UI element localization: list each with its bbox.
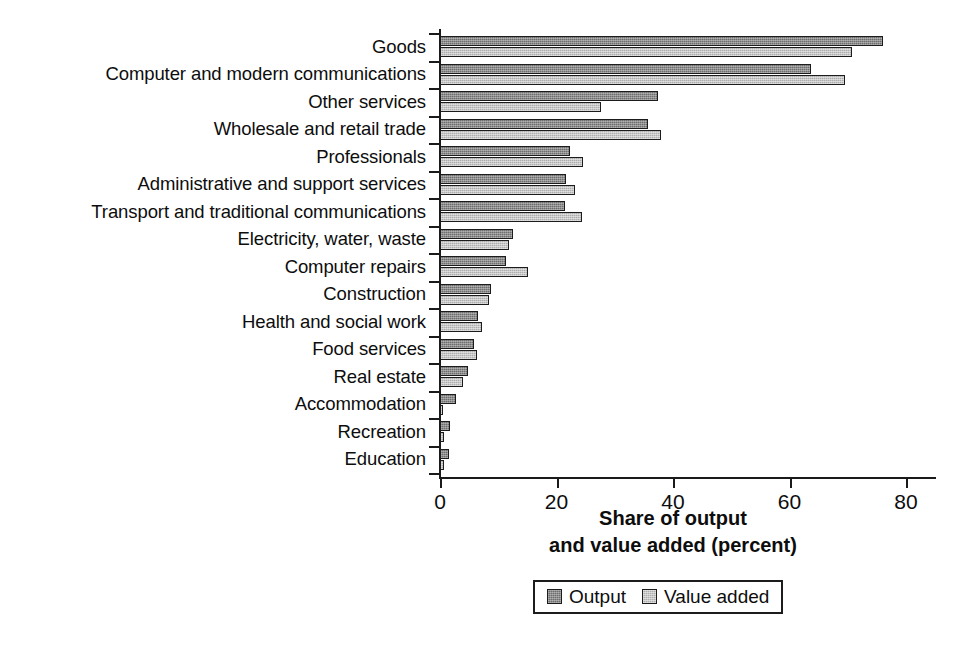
bar-value-added	[440, 75, 845, 85]
y-axis-tick	[429, 281, 439, 283]
y-axis-tick	[429, 198, 439, 200]
bar-value-added	[440, 212, 582, 222]
legend-entry: Output	[547, 587, 626, 606]
category-label: Education	[0, 446, 434, 474]
bar-value-added	[440, 460, 444, 470]
bar-value-added	[440, 322, 482, 332]
y-axis-tick	[429, 226, 439, 228]
bar-group	[440, 391, 906, 419]
category-label: Electricity, water, waste	[0, 226, 434, 254]
bar-group	[440, 33, 906, 61]
y-axis-tick	[429, 336, 439, 338]
x-axis-line	[439, 477, 936, 479]
category-label: Goods	[0, 33, 434, 61]
plot-area: 020406080	[440, 33, 906, 473]
bar-value-added	[440, 240, 509, 250]
category-label: Recreation	[0, 418, 434, 446]
bar-value-added	[440, 350, 477, 360]
y-axis-tick	[429, 363, 439, 365]
category-label: Food services	[0, 336, 434, 364]
bar-value-added	[440, 377, 463, 387]
bar-value-added	[440, 405, 443, 415]
bar-output	[440, 36, 883, 46]
chart-legend: OutputValue added	[533, 580, 783, 614]
category-axis-labels: GoodsComputer and modern communicationsO…	[0, 33, 434, 473]
x-axis-tick	[790, 477, 792, 488]
x-axis-tick	[906, 477, 908, 488]
y-axis-tick	[429, 308, 439, 310]
category-label: Professionals	[0, 143, 434, 171]
bar-value-added	[440, 157, 583, 167]
bar-output	[440, 339, 474, 349]
category-label: Wholesale and retail trade	[0, 116, 434, 144]
x-axis-tick	[440, 477, 442, 488]
bar-output	[440, 146, 570, 156]
x-axis-title-line: and value added (percent)	[440, 532, 906, 559]
y-axis-tick	[429, 418, 439, 420]
y-axis-tick	[429, 391, 439, 393]
category-label: Other services	[0, 88, 434, 116]
bar-output	[440, 256, 506, 266]
bar-value-added	[440, 432, 444, 442]
bar-value-added	[440, 102, 601, 112]
bar-value-added	[440, 130, 661, 140]
bar-group	[440, 308, 906, 336]
bar-value-added	[440, 295, 489, 305]
category-label: Construction	[0, 281, 434, 309]
category-label: Computer repairs	[0, 253, 434, 281]
bar-output	[440, 284, 491, 294]
y-axis-tick	[429, 473, 439, 475]
x-axis-title: Share of outputand value added (percent)	[440, 505, 906, 559]
bar-output	[440, 174, 566, 184]
category-label: Administrative and support services	[0, 171, 434, 199]
bar-output	[440, 64, 811, 74]
y-axis-tick	[429, 143, 439, 145]
bar-group	[440, 226, 906, 254]
bar-group	[440, 171, 906, 199]
bar-output	[440, 449, 449, 459]
bar-output	[440, 201, 565, 211]
legend-entry: Value added	[642, 587, 769, 606]
bar-output	[440, 311, 478, 321]
category-label: Computer and modern communications	[0, 61, 434, 89]
bar-output	[440, 91, 658, 101]
bar-group	[440, 116, 906, 144]
bar-group	[440, 88, 906, 116]
x-axis-tick	[673, 477, 675, 488]
bar-group	[440, 363, 906, 391]
bar-output	[440, 421, 450, 431]
bar-output	[440, 394, 456, 404]
bar-group	[440, 281, 906, 309]
bar-group	[440, 418, 906, 446]
category-label: Transport and traditional communications	[0, 198, 434, 226]
category-label: Accommodation	[0, 391, 434, 419]
bar-value-added	[440, 267, 528, 277]
bar-group	[440, 198, 906, 226]
bar-value-added	[440, 185, 575, 195]
bar-output	[440, 119, 648, 129]
bar-output	[440, 366, 468, 376]
y-axis-tick	[429, 116, 439, 118]
y-axis-tick	[429, 446, 439, 448]
y-axis-tick	[429, 61, 439, 63]
y-axis-tick	[429, 33, 439, 35]
legend-swatch-valueadded-icon	[642, 589, 657, 604]
bar-group	[440, 143, 906, 171]
x-axis-title-line: Share of output	[440, 505, 906, 532]
bar-group	[440, 446, 906, 474]
category-label: Health and social work	[0, 308, 434, 336]
y-axis-tick	[429, 253, 439, 255]
bar-value-added	[440, 47, 852, 57]
category-label: Real estate	[0, 363, 434, 391]
y-axis-tick	[429, 171, 439, 173]
bar-group	[440, 336, 906, 364]
bar-chart: GoodsComputer and modern communicationsO…	[0, 0, 964, 656]
bar-group	[440, 253, 906, 281]
x-axis-tick	[557, 477, 559, 488]
legend-swatch-output-icon	[547, 589, 562, 604]
y-axis-tick	[429, 88, 439, 90]
legend-label: Value added	[664, 587, 769, 606]
bar-group	[440, 61, 906, 89]
legend-label: Output	[569, 587, 626, 606]
bar-output	[440, 229, 513, 239]
